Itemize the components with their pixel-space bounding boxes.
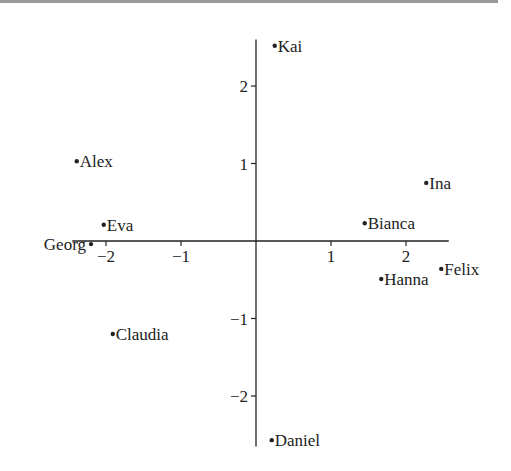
- point-ina: Ina: [424, 174, 451, 193]
- point-label: Hanna: [384, 270, 429, 289]
- point-label: Bianca: [368, 214, 416, 233]
- y-tick-label: 1: [240, 155, 249, 174]
- point-marker: [111, 332, 115, 336]
- point-marker: [363, 221, 367, 225]
- point-claudia: Claudia: [111, 325, 170, 344]
- point-label: Eva: [107, 216, 134, 235]
- point-label: Felix: [444, 260, 479, 279]
- point-marker: [89, 242, 93, 246]
- point-label: Georg: [44, 235, 87, 254]
- point-marker: [102, 223, 106, 227]
- scatter-chart: −2−112 21−1−2 KaiAlexInaEvaBiancaGeorgHa…: [0, 0, 511, 471]
- point-marker: [273, 44, 277, 48]
- point-label: Claudia: [116, 325, 169, 344]
- x-tick-label: −1: [172, 247, 190, 266]
- point-marker: [379, 277, 383, 281]
- point-marker: [270, 438, 274, 442]
- point-label: Alex: [80, 152, 114, 171]
- point-eva: Eva: [102, 216, 134, 235]
- x-tick-label: 2: [402, 247, 411, 266]
- point-kai: Kai: [273, 37, 303, 56]
- y-tick-label: 2: [240, 77, 249, 96]
- point-marker: [75, 159, 79, 163]
- y-tick-label: −2: [230, 387, 248, 406]
- y-tick-label: −1: [230, 310, 248, 329]
- point-georg: Georg: [44, 235, 93, 254]
- point-bianca: Bianca: [363, 214, 416, 233]
- x-ticks: −2−112: [97, 241, 410, 266]
- point-marker: [439, 267, 443, 271]
- point-label: Kai: [278, 37, 303, 56]
- x-tick-label: −2: [97, 247, 115, 266]
- point-hanna: Hanna: [379, 270, 429, 289]
- point-daniel: Daniel: [270, 431, 321, 450]
- point-label: Ina: [429, 174, 451, 193]
- x-tick-label: 1: [327, 247, 336, 266]
- data-points: KaiAlexInaEvaBiancaGeorgHannaFelixClaudi…: [44, 37, 480, 450]
- point-felix: Felix: [439, 260, 480, 279]
- point-alex: Alex: [75, 152, 114, 171]
- point-marker: [424, 181, 428, 185]
- point-label: Daniel: [275, 431, 321, 450]
